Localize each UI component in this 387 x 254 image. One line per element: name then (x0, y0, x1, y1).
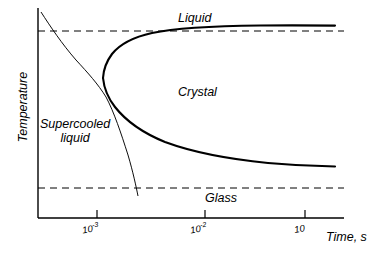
ttt-diagram-figure: Temperature Time, s 10-3 10-2 10 Liquid … (0, 0, 387, 254)
x-tick-label-10e-3: 10-3 (81, 221, 100, 236)
crystallization-start-curve-lower (103, 78, 335, 167)
x-tick-label-10e-2: 10-2 (189, 221, 208, 236)
tick-exponent: -2 (200, 221, 207, 229)
supercooled-line-1: Supercooled (40, 117, 110, 131)
region-label-liquid: Liquid (178, 11, 211, 25)
x-axis-ticks (97, 210, 305, 218)
crystallization-start-curve-upper (103, 25, 335, 78)
y-axis-label: Temperature (16, 47, 30, 167)
cooling-curve (41, 12, 138, 196)
x-tick-label-10: 10 (293, 221, 305, 235)
region-label-glass: Glass (205, 191, 237, 205)
region-label-supercooled-liquid: Supercooled liquid (40, 117, 110, 145)
supercooled-line-2: liquid (40, 131, 110, 145)
x-axis-label: Time, s (326, 230, 367, 244)
tick-exponent: -3 (92, 221, 99, 229)
tick-mantissa: 10 (293, 222, 305, 235)
region-label-crystal: Crystal (178, 85, 217, 99)
